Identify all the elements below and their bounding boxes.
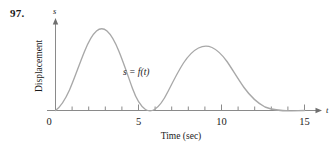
- x-axis-symbol: t: [326, 105, 329, 115]
- y-axis-label: Displacement: [34, 39, 44, 92]
- x-axis-major-ticks: [139, 105, 305, 111]
- figure-page: 97. Displacement s t: [0, 0, 335, 143]
- x-tick-label-0: 0: [46, 116, 51, 127]
- x-axis-caption: Time (sec): [161, 131, 202, 142]
- x-tick-label-5: 5: [136, 116, 141, 127]
- y-axis-arrow-icon: [53, 18, 58, 25]
- x-tick-label-10: 10: [216, 116, 227, 127]
- x-axis-arrow-icon: [316, 108, 323, 113]
- displacement-time-graph: Displacement s t: [0, 0, 335, 143]
- y-axis-symbol: s: [53, 6, 57, 16]
- curve-equation-label: s = f(t): [123, 67, 149, 78]
- x-tick-label-15: 15: [299, 116, 310, 127]
- displacement-curve: [56, 29, 305, 111]
- x-axis-minor-ticks: [72, 107, 288, 111]
